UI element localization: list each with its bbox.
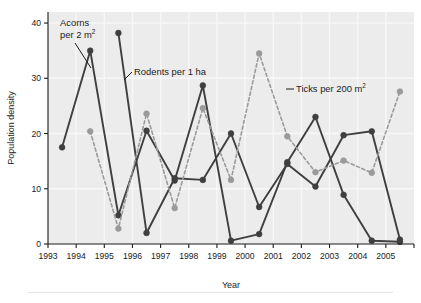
data-point [313,114,319,120]
data-point [59,144,65,150]
y-tick-label: 30 [31,73,41,83]
x-tick-label: 2003 [320,251,339,261]
x-axis-title: Year [222,280,240,290]
data-point [87,48,93,54]
chart-figure: 010203040 199319941995199619971998199920… [0,0,421,303]
annotation-ticks-label: Ticks per 200 m [296,83,363,94]
annotation-acorns-line1: Acorns [60,17,89,28]
x-tick-label: 1998 [179,251,198,261]
data-point [256,231,262,237]
data-point [144,230,150,236]
data-point [341,158,347,164]
data-point [115,30,121,36]
y-axis-title: Population density [6,91,16,165]
data-point [228,238,234,244]
annotation-ticks-text: Ticks per 200 m2 [296,82,366,94]
annotation-ticks-superscript: 2 [362,82,366,89]
data-point [313,169,319,175]
data-point [369,238,375,244]
data-point [256,204,262,210]
data-point [397,89,403,95]
y-axis-ticks: 010203040 [31,18,48,249]
data-point [144,128,150,134]
y-tick-label: 40 [31,18,41,28]
caption-divider [28,292,393,293]
x-tick-label: 1997 [151,251,170,261]
data-point [172,175,178,181]
line-chart: 010203040 199319941995199619971998199920… [0,0,421,303]
data-point [341,192,347,198]
data-point [228,131,234,137]
data-point [284,161,290,167]
annotation-rodents-text: Rodents per 1 ha [134,66,207,77]
x-tick-label: 1995 [95,251,114,261]
x-axis-ticks: 1993199419951996199719981999200020012002… [38,244,414,261]
x-tick-label: 2000 [236,251,255,261]
y-tick-label: 20 [31,129,41,139]
x-tick-label: 1994 [67,251,86,261]
x-tick-label: 1993 [38,251,57,261]
data-point [369,128,375,134]
x-tick-label: 2004 [348,251,367,261]
x-tick-label: 1999 [207,251,226,261]
annotation-acorns-superscript: 2 [92,28,96,35]
data-point [200,83,206,89]
annotation-acorns-line2-text: per 2 m [60,29,92,40]
annotation-acorns-line2: per 2 m2 [60,28,96,40]
data-point [200,105,206,111]
x-tick-label: 2001 [264,251,283,261]
y-tick-label: 0 [36,239,41,249]
x-tick-label: 2002 [292,251,311,261]
data-point [87,128,93,134]
data-point [200,177,206,183]
data-point [256,51,262,57]
data-point [397,237,403,243]
annotation-ticks: Ticks per 200 m2 [286,82,366,94]
data-point [172,205,178,211]
data-point [369,170,375,176]
data-point [284,133,290,139]
y-tick-label: 10 [31,184,41,194]
data-point [228,177,234,183]
data-point [313,184,319,190]
x-tick-label: 1996 [123,251,142,261]
x-tick-label: 2005 [376,251,395,261]
data-point [115,226,121,232]
data-point [341,132,347,138]
data-point [144,111,150,117]
